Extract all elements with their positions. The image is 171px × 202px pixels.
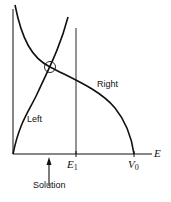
solution-arrowhead xyxy=(47,157,52,165)
e1-sub: 1 xyxy=(74,163,78,172)
e1-main: E xyxy=(67,158,74,170)
v0-label: V0 xyxy=(128,159,139,172)
v0-main: V xyxy=(128,158,135,170)
diagram-canvas xyxy=(0,0,171,202)
left-curve xyxy=(13,17,68,154)
e1-label: E1 xyxy=(67,159,78,172)
diagram: Right Left E E1 V0 Solution xyxy=(0,0,171,202)
solution-label: Solution xyxy=(33,181,66,190)
v0-sub: 0 xyxy=(135,163,139,172)
left-curve-label: Left xyxy=(27,115,42,124)
right-curve-label: Right xyxy=(97,80,118,89)
x-axis-label: E xyxy=(154,148,161,159)
